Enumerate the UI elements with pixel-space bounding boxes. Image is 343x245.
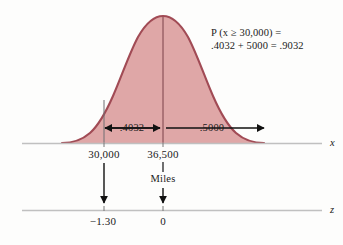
x-tick-label-cutoff: 30,000 (88, 149, 119, 161)
x-tick-label-mean: 36,500 (147, 149, 178, 161)
z-tick-label-zero: 0 (160, 216, 166, 228)
right-band-label: .5000 (200, 122, 225, 133)
x-axis-units-label: Miles (151, 173, 176, 184)
probability-annotation: P (x ≥ 30,000) = .4032 + 5000 = .9032 (211, 26, 304, 52)
left-band-label: .4032 (120, 122, 145, 133)
x-axis-letter: x (330, 137, 335, 148)
z-axis-letter: z (330, 204, 334, 215)
normal-distribution-figure: P (x ≥ 30,000) = .4032 + 5000 = .9032 .4… (0, 0, 343, 245)
annotation-line-1: P (x ≥ 30,000) = (211, 26, 304, 39)
annotation-line-2: .4032 + 5000 = .9032 (211, 39, 304, 52)
z-tick-label-minus130: −1.30 (90, 216, 116, 228)
